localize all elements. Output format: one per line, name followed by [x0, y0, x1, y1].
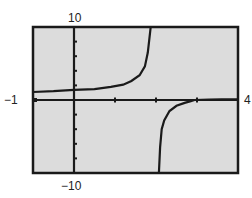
y-min-label: −10: [61, 180, 81, 192]
calculator-graph-screen: [0, 0, 252, 198]
x-min-label: −1: [4, 94, 18, 106]
y-max-label: 10: [68, 12, 81, 24]
x-max-label: 4: [244, 94, 251, 106]
x-tick: [34, 98, 37, 102]
